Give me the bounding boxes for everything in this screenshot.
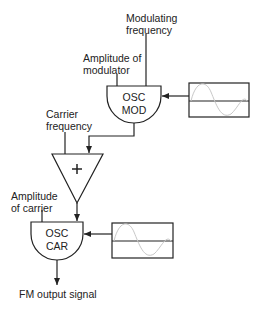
label-line: CAR [31, 240, 83, 253]
label-line: Amplitude of [83, 52, 141, 64]
modulating-frequency-label: Modulating frequency [126, 12, 177, 36]
diagram-canvas [0, 0, 261, 309]
waveform-box-mod [189, 83, 249, 117]
label-line: frequency [46, 120, 92, 132]
label-line: Amplitude [11, 190, 58, 202]
carrier-frequency-label: Carrier frequency [46, 108, 92, 132]
osc-mod-output-arrow [89, 123, 134, 153]
label-line: OSC [107, 91, 161, 104]
label-line: OSC [31, 227, 83, 240]
label-line: modulator [83, 64, 141, 76]
osc-mod-label: OSC MOD [107, 91, 161, 117]
amplitude-of-carrier-label: Amplitude of carrier [11, 190, 58, 214]
label-line: frequency [126, 24, 177, 36]
label-line: of carrier [11, 202, 58, 214]
amplitude-of-modulator-label: Amplitude of modulator [83, 52, 141, 76]
osc-car-label: OSC CAR [31, 227, 83, 253]
adder-triangle [52, 154, 103, 203]
label-line: Carrier [46, 108, 92, 120]
label-line: Modulating [126, 12, 177, 24]
fm-output-signal-label: FM output signal [19, 288, 97, 300]
label-line: MOD [107, 104, 161, 117]
